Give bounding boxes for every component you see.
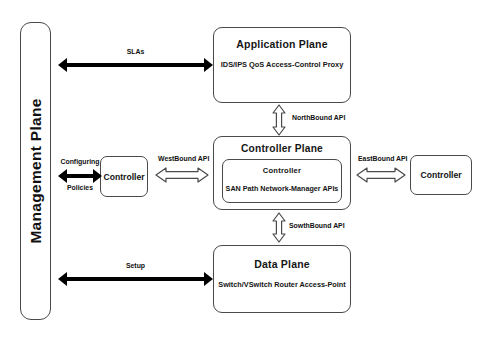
west-controller-label: Controller bbox=[101, 172, 147, 182]
southbound-api-arrow bbox=[272, 212, 286, 243]
configuring-policies-arrow bbox=[58, 169, 102, 183]
configuring-label: Configuring bbox=[52, 158, 108, 165]
data-plane-box: Data Plane Switch/VSwitch Router Access-… bbox=[213, 245, 351, 313]
policies-label: Policies bbox=[52, 184, 108, 191]
application-plane-title: Application Plane bbox=[214, 38, 350, 50]
eastbound-api-label: EastBound API bbox=[358, 155, 408, 162]
slas-arrow-shaft bbox=[65, 63, 206, 66]
east-controller-label: Controller bbox=[411, 170, 471, 180]
configuring-arrow-shaft bbox=[65, 174, 95, 177]
slas-arrow bbox=[58, 58, 213, 72]
setup-label: Setup bbox=[58, 262, 213, 269]
setup-arrow bbox=[58, 272, 213, 286]
application-plane-box: Application Plane IDS/IPS QoS Access-Con… bbox=[213, 27, 351, 103]
controller-inner-items: SAN Path Network-Manager APIs bbox=[223, 184, 341, 193]
data-plane-items: Switch/VSwitch Router Access-Point bbox=[214, 280, 350, 289]
northbound-api-arrow bbox=[272, 104, 286, 136]
east-controller-box: Controller bbox=[410, 155, 472, 195]
eastbound-api-arrow bbox=[356, 166, 406, 184]
slas-label: SLAs bbox=[58, 48, 213, 55]
management-plane-label: Management Plane bbox=[27, 98, 45, 243]
diagram-canvas: Management Plane Application Plane IDS/I… bbox=[0, 0, 483, 339]
controller-inner-box: Controller SAN Path Network-Manager APIs bbox=[222, 159, 342, 203]
westbound-api-arrow bbox=[155, 166, 209, 184]
controller-inner-title: Controller bbox=[223, 166, 341, 175]
application-plane-items: IDS/IPS QoS Access-Control Proxy bbox=[214, 60, 350, 69]
westbound-api-label: WestBound API bbox=[158, 155, 209, 162]
southbound-api-label: SowthBound API bbox=[289, 222, 345, 229]
setup-arrow-head-right bbox=[204, 272, 213, 286]
setup-arrow-shaft bbox=[65, 277, 206, 280]
data-plane-title: Data Plane bbox=[214, 258, 350, 270]
configuring-arrow-head-right bbox=[93, 169, 102, 183]
management-plane-box: Management Plane bbox=[20, 22, 51, 320]
slas-arrow-head-right bbox=[204, 58, 213, 72]
controller-plane-box: Controller Plane Controller SAN Path Net… bbox=[213, 136, 351, 210]
controller-plane-title: Controller Plane bbox=[214, 143, 350, 154]
northbound-api-label: NorthBound API bbox=[292, 114, 345, 121]
